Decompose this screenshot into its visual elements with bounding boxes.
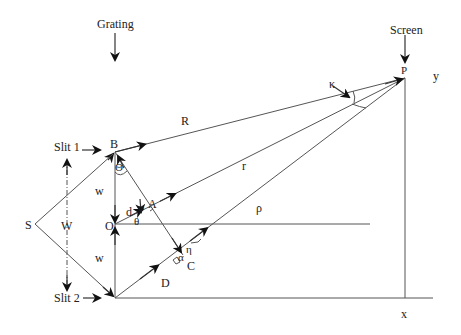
double-slit-geometry-diagram: Grating Screen Slit 1 Slit 2 S W w w B O… — [0, 0, 461, 335]
R-label: R — [181, 114, 189, 128]
rho-label: ρ — [256, 201, 262, 215]
w-lower-label: w — [95, 251, 104, 265]
slit1-label: Slit 1 — [54, 140, 80, 154]
A-label: A — [148, 197, 157, 211]
w-upper-label: w — [95, 184, 104, 198]
screen-label: Screen — [390, 23, 423, 37]
Theta-label: Θ — [115, 161, 123, 173]
O-label: O — [105, 219, 114, 233]
phi-label: φ — [138, 201, 144, 213]
grating-label: Grating — [97, 17, 134, 31]
D-label: D — [161, 276, 170, 290]
slit2-label: Slit 2 — [54, 291, 80, 305]
kappa-arc — [353, 91, 355, 103]
kappa-label: κ — [329, 77, 335, 91]
S-label: S — [25, 218, 32, 232]
d-label: d — [126, 205, 132, 219]
C-arrow — [172, 238, 181, 252]
r-label: r — [242, 159, 246, 173]
C-label: C — [187, 259, 195, 273]
W-label: W — [61, 219, 73, 233]
ray-r-arrow — [160, 194, 175, 202]
alpha-label: α — [178, 251, 184, 263]
x-label: x — [401, 307, 407, 321]
angle-arc-2 — [352, 104, 366, 108]
theta-label: θ — [134, 215, 139, 227]
ray-C-arrow — [190, 228, 207, 241]
B-label: B — [110, 137, 118, 151]
ray-rho — [115, 78, 405, 298]
P-label: P — [401, 64, 407, 76]
eta-label: η — [186, 243, 192, 255]
ray-R-arrow — [115, 144, 145, 152]
ray-R — [115, 78, 405, 152]
y-label: y — [433, 69, 439, 83]
slit2-arrow — [103, 287, 113, 296]
ray-D-arrow — [140, 265, 158, 279]
